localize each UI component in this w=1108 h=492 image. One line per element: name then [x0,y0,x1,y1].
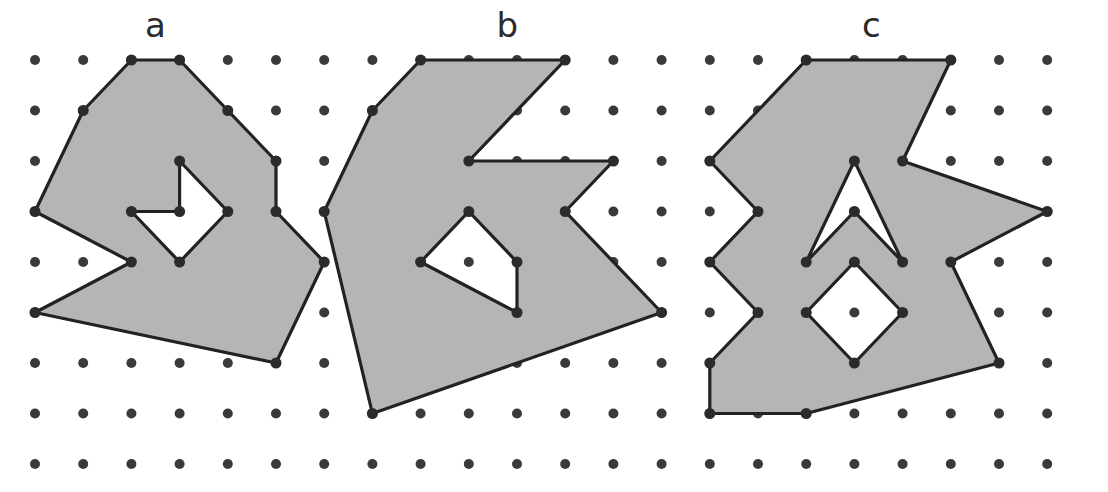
lattice-dot [223,409,233,419]
lattice-dot [223,459,233,469]
lattice-dot [1042,106,1052,116]
lattice-dot [319,308,329,318]
lattice-dot [464,257,474,267]
lattice-dot [1042,257,1052,267]
lattice-dot [271,55,281,65]
polygon-vertex-dot [753,206,764,217]
lattice-dot [946,409,956,419]
polygon-vertex-dot [945,257,956,268]
lattice-dot [946,156,956,166]
polygon-vertex-dot [174,156,185,167]
polygon-vertex-dot [463,206,474,217]
polygon-vertex-dot [849,206,860,217]
lattice-dot [1042,55,1052,65]
lattice-dot [30,459,40,469]
lattice-dot [994,156,1004,166]
polygon-vertex-dot [415,257,426,268]
lattice-dot [416,409,426,419]
lattice-dot [223,55,233,65]
lattice-dot [319,156,329,166]
polygon-vertex-dot [174,257,185,268]
lattice-dot [657,257,667,267]
polygon-vertex-dot [994,358,1005,369]
lattice-dot [78,257,88,267]
dot-lattice-polygons-figure: abc [0,0,1108,492]
lattice-dot [657,358,667,368]
lattice-dot [1042,358,1052,368]
lattice-dot [319,358,329,368]
lattice-dot [319,55,329,65]
shape-label-layer: abc [145,5,881,45]
lattice-dot [30,55,40,65]
lattice-dot [464,459,474,469]
polygon-vertex-dot [753,307,764,318]
polygon-vertex-dot [560,206,571,217]
polygon-layer [35,60,1047,414]
polygon-vertex-dot [174,206,185,217]
lattice-dot [30,358,40,368]
lattice-dot [126,459,136,469]
lattice-dot [560,358,570,368]
lattice-dot [994,409,1004,419]
polygon-vertex-dot [704,156,715,167]
lattice-dot [994,106,1004,116]
polygon-vertex-dot [801,408,812,419]
shape-label-a: a [145,5,166,45]
polygon-vertex-dot [126,55,137,66]
lattice-dot [175,459,185,469]
polygon-vertex-dot [30,206,41,217]
lattice-dot [608,459,618,469]
polygon-vertex-dot [512,307,523,318]
lattice-dot [608,358,618,368]
lattice-dot [175,409,185,419]
polygon-vertex-dot [415,55,426,66]
lattice-dot [753,459,763,469]
polygon-vertex-dot [945,55,956,66]
polygon-vertex-dot [367,105,378,116]
lattice-dot [898,409,908,419]
lattice-dot [78,55,88,65]
polygon-vertex-dot [126,257,137,268]
lattice-dot [898,459,908,469]
lattice-dot [705,459,715,469]
lattice-dot [705,106,715,116]
polygon-vertex-dot [704,257,715,268]
lattice-dot [78,409,88,419]
lattice-dot [657,106,667,116]
lattice-dot [849,409,859,419]
lattice-dot [319,409,329,419]
lattice-dot [994,257,1004,267]
polygon-vertex-dot [656,307,667,318]
polygon-vertex-dot [801,307,812,318]
lattice-dot [175,358,185,368]
lattice-dot [849,459,859,469]
polygon-vertex-dot [560,55,571,66]
lattice-dot [271,459,281,469]
lattice-dot [78,358,88,368]
lattice-dot [30,156,40,166]
lattice-dot [560,106,570,116]
lattice-dot [464,409,474,419]
polygon-vertex-dot [897,307,908,318]
polygon-vertex-dot [319,257,330,268]
polygon-vertex-dot [126,206,137,217]
shape-label-b: b [497,5,519,45]
lattice-dot [126,358,136,368]
lattice-dot [705,55,715,65]
lattice-dot [126,409,136,419]
polygon-vertex-dot [271,156,282,167]
lattice-dot [30,257,40,267]
polygon-vertex-dot [849,156,860,167]
lattice-dot [608,106,618,116]
polygon-vertex-dot [897,257,908,268]
lattice-dot [657,409,667,419]
lattice-dot [608,409,618,419]
lattice-dot [849,308,859,318]
lattice-dot [78,459,88,469]
lattice-dot [30,106,40,116]
lattice-dot [271,106,281,116]
lattice-dot [657,207,667,217]
lattice-dot [1042,308,1052,318]
lattice-dot [560,409,570,419]
lattice-dot [946,459,956,469]
